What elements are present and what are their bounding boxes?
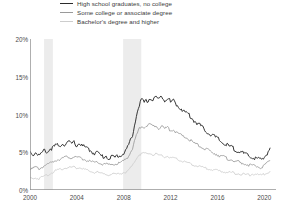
unemployment-rate-by-education-chart: High school graduates, no college Some c… [0, 0, 287, 217]
y-axis-tick-labels: 20% 15% 10% 5% 0% [0, 39, 28, 190]
series-paths [30, 96, 270, 180]
x-axis-tick-labels: 2000 2004 2008 2012 2016 2020 [30, 194, 276, 206]
recession-band-2008 [123, 39, 141, 190]
legend-label-high-school: High school graduates, no college [77, 0, 172, 7]
legend-item-some-college: Some college or associate degree [60, 8, 260, 17]
y-tick-0: 0% [2, 187, 28, 194]
legend-swatch-bachelors-icon [60, 21, 73, 22]
legend-swatch-hs-icon [60, 3, 73, 4]
x-tick-2004: 2004 [70, 194, 84, 201]
x-tick-2012: 2012 [163, 194, 177, 201]
chart-svg [30, 39, 276, 190]
series-line-high-school [30, 96, 270, 160]
legend-label-bachelors: Bachelor's degree and higher [77, 18, 159, 25]
legend-label-some-college: Some college or associate degree [77, 9, 172, 16]
chart-legend: High school graduates, no college Some c… [60, 0, 260, 26]
plot-area [30, 39, 276, 190]
y-tick-10: 10% [2, 111, 28, 118]
y-tick-5: 5% [2, 149, 28, 156]
recession-bands [44, 39, 141, 190]
x-tick-2020: 2020 [257, 194, 271, 201]
x-tick-2000: 2000 [23, 194, 37, 201]
legend-item-bachelors: Bachelor's degree and higher [60, 17, 260, 26]
y-tick-15: 15% [2, 73, 28, 80]
x-tick-2008: 2008 [117, 194, 131, 201]
series-line-some-college [30, 124, 270, 170]
legend-swatch-some-college-icon [60, 12, 73, 13]
y-tick-20: 20% [2, 36, 28, 43]
legend-item-high-school: High school graduates, no college [60, 0, 260, 8]
recession-band-2001 [44, 39, 53, 190]
x-tick-2016: 2016 [210, 194, 224, 201]
series-line-bachelors [30, 152, 270, 179]
